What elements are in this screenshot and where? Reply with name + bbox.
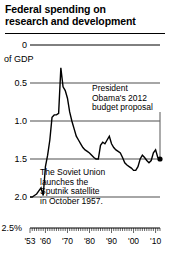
annotation-sputnik-line-4: in October 1957. xyxy=(40,197,130,207)
annotation-obama-line-3: budget proposal xyxy=(92,103,168,113)
y-tick-label-1.0: 1.0 xyxy=(14,116,27,126)
x-tick-label-10: '10 xyxy=(150,236,161,246)
x-tick-label-00: '00 xyxy=(128,236,139,246)
annotation-sputnik: The Soviet Union launches the Sputnik sa… xyxy=(40,168,130,206)
annotation-obama: President Obama's 2012 budget proposal xyxy=(92,84,168,113)
x-tick-label-60: '60 xyxy=(40,236,51,246)
x-tick-label-90: '90 xyxy=(106,236,117,246)
y-tick-label-1.5: 1.5 xyxy=(14,154,27,164)
y-tick-label-0: 2.5% xyxy=(1,223,22,233)
endpoint-dot xyxy=(157,156,162,161)
y-tick-label-2.0: 2.0 xyxy=(14,192,27,202)
x-axis-tick-labels: '53'60'70'80'90'00'10 xyxy=(24,236,161,246)
y-tick-label-0: 0 xyxy=(22,40,27,50)
x-tick-label-80: '80 xyxy=(84,236,95,246)
y-axis-unit-label: of GDP xyxy=(4,54,34,64)
chart-plot-area: 2.5%2.01.51.00.50 '53'60'70'80'90'00'10 … xyxy=(0,0,170,260)
y-tick-label-0.5: 0.5 xyxy=(14,78,27,88)
chart-container: Federal spending on research and develop… xyxy=(0,0,170,260)
x-axis-tick-marks xyxy=(30,228,160,233)
x-tick-label-53: '53 xyxy=(24,236,35,246)
y-axis-tick-labels: 2.5%2.01.51.00.50 xyxy=(1,40,27,233)
x-tick-label-70: '70 xyxy=(62,236,73,246)
